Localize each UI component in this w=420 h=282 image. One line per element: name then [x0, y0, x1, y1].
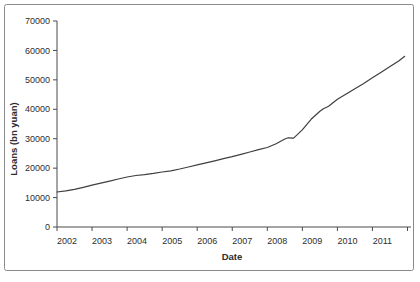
x-tick-label: 2011 — [373, 236, 392, 246]
y-tick-label: 70000 — [25, 16, 50, 26]
y-tick-label: 0 — [45, 222, 50, 232]
x-axis-title: Date — [222, 251, 243, 262]
y-tick-label: 40000 — [25, 104, 50, 114]
y-tick-label: 50000 — [25, 75, 50, 85]
x-tick-label: 2007 — [232, 236, 252, 246]
y-axis-title: Loans (bn yuan) — [8, 102, 19, 175]
y-tick-label: 10000 — [25, 193, 50, 203]
y-tick-label: 20000 — [25, 163, 50, 173]
x-tick-label: 2005 — [162, 236, 182, 246]
x-tick-label: 2006 — [197, 236, 217, 246]
x-tick-label: 2004 — [127, 236, 147, 246]
x-tick-label: 2002 — [57, 236, 77, 246]
loans-chart: 0100002000030000400005000060000700002002… — [0, 0, 420, 282]
x-tick-label: 2008 — [267, 236, 287, 246]
y-tick-label: 60000 — [25, 46, 50, 56]
figure-border — [5, 5, 414, 271]
x-tick-label: 2009 — [302, 236, 322, 246]
x-tick-label: 2003 — [92, 236, 112, 246]
y-tick-label: 30000 — [25, 134, 50, 144]
x-tick-label: 2010 — [337, 236, 357, 246]
figure: 0100002000030000400005000060000700002002… — [0, 0, 420, 282]
